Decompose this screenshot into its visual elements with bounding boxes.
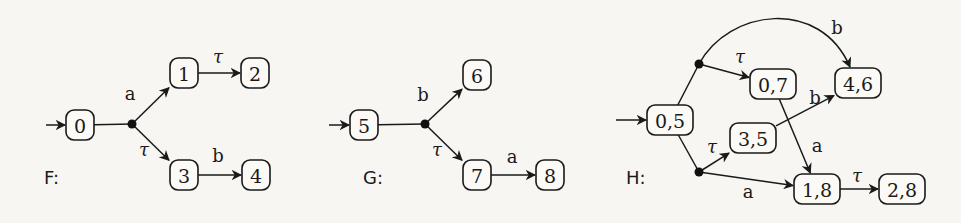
edge-label: a [743,181,754,202]
state-node: 5 [350,110,378,140]
branch-point [695,168,704,177]
graph-label-f: F: [44,167,59,188]
state-label: 2 [249,63,261,85]
state-label: 7 [471,165,483,187]
edge-label: τ [213,46,224,67]
state-node: 3 [170,160,198,190]
state-node: 7 [463,160,491,190]
state-node: 3,5 [730,123,776,153]
state-node: 4 [242,160,270,190]
transition-edge [378,124,425,125]
edge-label: b [417,84,429,105]
state-label: 3 [178,165,190,187]
transition-edge [425,89,462,124]
state-node: 2,8 [879,174,925,204]
state-node: 4,6 [835,68,881,98]
state-label: 1,8 [802,179,832,201]
edge-label: τ [432,139,443,160]
state-label: 3,5 [738,128,768,150]
edge-label: τ [852,165,863,186]
edge-label: τ [707,136,718,157]
state-label: 4,6 [843,73,873,95]
edge-label: b [831,17,843,38]
edge-label: a [812,135,823,156]
branch-point [421,120,430,129]
edge-label: a [125,83,136,104]
transition-edge [678,135,699,172]
transition-edge [94,124,132,125]
state-label: 1 [178,63,190,85]
state-node: 0,5 [647,105,693,135]
state-node: 0,7 [750,69,796,99]
edge-label: b [212,145,224,166]
figure-canvas: 0123456780,50,74,63,51,82,8 F:aττbG:bτaH… [0,0,961,223]
transition-edge [132,124,169,160]
state-label: 0,7 [758,74,788,96]
edge-label: a [507,146,518,167]
branch-point [695,60,704,69]
transition-edge [425,124,462,160]
transition-edge [699,19,850,67]
graph-label-h: H: [626,167,646,188]
edge-label: τ [735,46,746,67]
state-node: 8 [536,160,564,190]
state-label: 0 [74,115,86,137]
state-node: 0 [66,110,94,140]
state-label: 0,5 [655,110,685,132]
transition-edge [132,88,169,124]
state-node: 1 [170,58,198,88]
state-label: 2,8 [887,179,917,201]
state-node: 1,8 [794,174,840,204]
state-label: 4 [250,165,262,187]
state-label: 6 [471,65,483,87]
state-node: 2 [241,58,269,88]
transition-edge [678,64,699,105]
transition-graphs-diagram: 0123456780,50,74,63,51,82,8 F:aττbG:bτaH… [0,0,961,223]
state-label: 8 [544,165,556,187]
branch-point [128,120,137,129]
state-label: 5 [358,115,370,137]
state-node: 6 [463,60,491,90]
graph-label-g: G: [363,167,383,188]
edge-label: τ [139,139,150,160]
edge-label: b [809,87,821,108]
